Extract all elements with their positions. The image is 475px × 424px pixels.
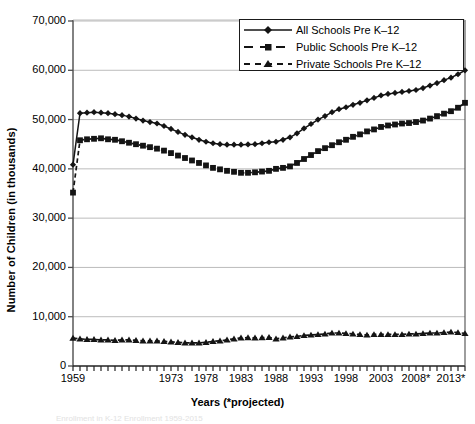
chart-legend: All Schools Pre K–12 Public Schools Pre … [239,19,464,71]
legend-label-all-schools: All Schools Pre K–12 [296,24,399,37]
legend-marker-triangle [240,56,296,72]
legend-item-public-schools: Public Schools Pre K–12 [240,39,463,55]
chart-figure: Number of Children (in thousands) 010,00… [0,0,475,424]
legend-label-private-schools: Private Schools Pre K–12 [296,58,421,71]
legend-item-all-schools: All Schools Pre K–12 [240,22,463,38]
legend-label-public-schools: Public Schools Pre K–12 [296,41,417,54]
legend-marker-diamond [240,22,296,38]
legend-item-private-schools: Private Schools Pre K–12 [240,56,463,72]
x-axis-title: Years (*projected) [0,396,475,408]
figure-caption: Enrollment in K-12 Enrollment 1959-2015 [56,414,356,423]
legend-marker-square [240,39,296,55]
